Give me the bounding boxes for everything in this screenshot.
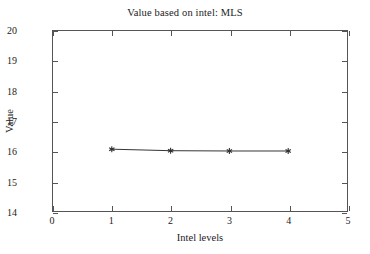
x-tick-mark: [112, 31, 113, 36]
x-tick-label: 4: [277, 215, 301, 226]
y-tick-mark: [342, 92, 347, 93]
x-tick-mark: [171, 31, 172, 36]
chart-title: Value based on intel: MLS: [0, 7, 370, 18]
y-tick-mark: [53, 213, 58, 214]
x-axis-title: Intel levels: [52, 232, 348, 243]
y-tick-label: 14: [0, 207, 17, 218]
x-tick-mark: [290, 206, 291, 211]
y-tick-mark: [342, 183, 347, 184]
y-tick-label: 16: [0, 146, 17, 157]
x-tick-label: 5: [336, 215, 360, 226]
x-tick-mark: [349, 206, 350, 211]
y-tick-mark: [342, 61, 347, 62]
y-tick-label: 15: [0, 176, 17, 187]
x-tick-mark: [171, 206, 172, 211]
y-tick-mark: [342, 31, 347, 32]
chart-figure: Value based on intel: MLS Value Intel le…: [0, 0, 370, 254]
x-tick-mark: [53, 31, 54, 36]
plot-area: [53, 31, 347, 211]
x-tick-mark: [290, 31, 291, 36]
y-tick-mark: [342, 122, 347, 123]
y-tick-mark: [342, 152, 347, 153]
y-tick-mark: [53, 183, 58, 184]
y-tick-label: 18: [0, 85, 17, 96]
x-tick-mark: [231, 206, 232, 211]
series-layer: [53, 31, 347, 211]
y-tick-mark: [53, 122, 58, 123]
y-tick-mark: [53, 92, 58, 93]
y-tick-label: 20: [0, 25, 17, 36]
x-tick-label: 1: [99, 215, 123, 226]
x-tick-label: 2: [158, 215, 182, 226]
y-tick-mark: [53, 61, 58, 62]
y-tick-label: 17: [0, 116, 17, 127]
y-tick-label: 19: [0, 55, 17, 66]
x-tick-mark: [231, 31, 232, 36]
x-tick-label: 3: [218, 215, 242, 226]
x-tick-label: 0: [40, 215, 64, 226]
x-tick-mark: [349, 31, 350, 36]
x-tick-mark: [112, 206, 113, 211]
x-tick-mark: [53, 206, 54, 211]
series-line: [112, 149, 288, 151]
y-tick-mark: [342, 213, 347, 214]
y-tick-mark: [53, 152, 58, 153]
plot-frame: [52, 30, 348, 212]
